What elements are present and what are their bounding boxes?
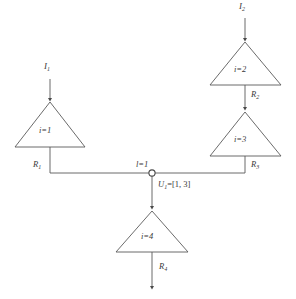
- label-block-3: i=3: [234, 135, 246, 144]
- label-resistor-r4: R4: [159, 262, 167, 272]
- label-block-4: i=4: [141, 232, 153, 241]
- label-resistor-r2: R2: [251, 90, 259, 100]
- label-current-i1: I1: [44, 62, 50, 72]
- label-block-1: i=1: [39, 126, 51, 135]
- bus-node-marker[interactable]: [149, 170, 155, 176]
- label-current-i2: I2: [239, 2, 245, 12]
- figure-canvas: I1 I2 i=1 i=2 i=3 i=4 R1 R2 R3 R4 l=1 U1…: [0, 0, 296, 299]
- label-resistor-r1: R1: [33, 160, 41, 170]
- label-current-i1-subscript: 1: [47, 66, 50, 72]
- diagram-svg: [0, 0, 296, 299]
- label-current-i2-subscript: 2: [242, 6, 245, 12]
- label-node-index: l=1: [136, 160, 148, 169]
- label-resistor-r3-subscript: 3: [256, 164, 259, 170]
- label-resistor-r1-subscript: 1: [38, 164, 41, 170]
- label-node-voltage: U1=[1, 3]: [158, 180, 190, 190]
- label-resistor-r3: R3: [251, 160, 259, 170]
- label-resistor-r2-subscript: 2: [256, 94, 259, 100]
- label-block-2: i=2: [234, 65, 246, 74]
- label-resistor-r4-subscript: 4: [164, 266, 167, 272]
- label-node-voltage-assignment: =[1, 3]: [167, 179, 190, 189]
